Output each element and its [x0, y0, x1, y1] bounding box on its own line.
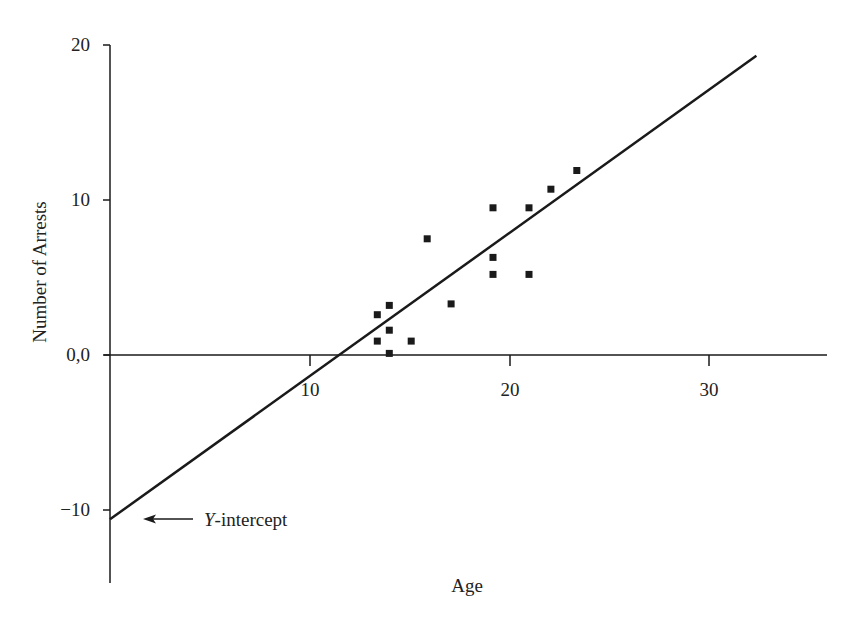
data-point	[374, 311, 381, 318]
annotation-text: -intercept	[215, 509, 288, 530]
data-point	[386, 302, 393, 309]
data-points	[374, 167, 581, 357]
x-tick-label-20: 20	[490, 380, 530, 399]
data-point	[490, 271, 497, 278]
data-point	[448, 300, 455, 307]
data-point	[386, 350, 393, 357]
x-ticks	[310, 355, 709, 366]
y-intercept-annotation: Y-intercept	[204, 509, 287, 531]
data-point	[374, 338, 381, 345]
y-axis-title: Number of Arrests	[29, 201, 51, 342]
data-point	[490, 204, 497, 211]
data-point	[573, 167, 580, 174]
x-tick-label-10: 10	[290, 380, 330, 399]
data-point	[408, 338, 415, 345]
x-axis-title: Age	[451, 575, 483, 597]
data-point	[424, 235, 431, 242]
data-point	[547, 186, 554, 193]
y-tick-label-neg10: −10	[30, 500, 90, 519]
data-point	[490, 254, 497, 261]
y-intercept-arrow-icon	[143, 515, 193, 524]
scatter-plot	[0, 0, 843, 622]
y-tick-label-20: 20	[30, 35, 90, 54]
data-point	[526, 204, 533, 211]
data-point	[386, 327, 393, 334]
data-point	[526, 271, 533, 278]
x-tick-label-30: 30	[689, 380, 729, 399]
y-ticks	[103, 45, 110, 510]
annotation-italic-y: Y	[204, 509, 215, 530]
regression-line	[110, 56, 756, 519]
y-tick-label-0: 0,0	[30, 345, 90, 364]
